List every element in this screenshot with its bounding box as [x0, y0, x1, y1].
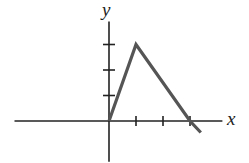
y-axis-label: y [102, 0, 110, 19]
chart-plot [0, 0, 249, 163]
x-axis-label: x [227, 109, 235, 128]
data-line [109, 45, 201, 133]
